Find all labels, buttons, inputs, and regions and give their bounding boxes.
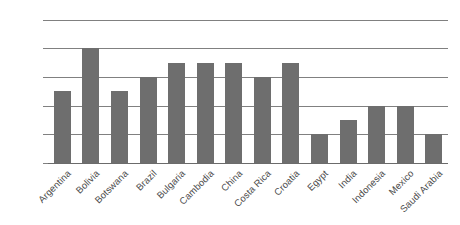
bar[interactable] (397, 106, 414, 163)
bar[interactable] (368, 106, 385, 163)
bar[interactable] (282, 63, 299, 163)
y-axis-labels: 0%20%40%60%80%100% (0, 0, 42, 225)
bar-chart: 0%20%40%60%80%100% ArgentinaBoliviaBotsw… (0, 0, 460, 225)
bar[interactable] (340, 120, 357, 163)
bar[interactable] (197, 63, 214, 163)
bar[interactable] (225, 63, 242, 163)
bar[interactable] (168, 63, 185, 163)
bar[interactable] (254, 77, 271, 163)
x-axis-line (48, 163, 448, 164)
bar[interactable] (140, 77, 157, 163)
y-axis-tick (43, 163, 48, 164)
bar[interactable] (54, 91, 71, 163)
bar[interactable] (111, 91, 128, 163)
bar[interactable] (82, 48, 99, 163)
bar[interactable] (425, 134, 442, 163)
bar[interactable] (311, 134, 328, 163)
bars-layer (48, 0, 448, 163)
